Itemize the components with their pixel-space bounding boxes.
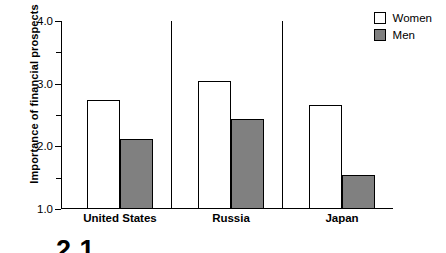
bar-men-japan bbox=[342, 175, 375, 209]
legend-swatch-men-icon bbox=[374, 29, 386, 41]
y-tick-label-3-0: 3.0 bbox=[37, 78, 53, 90]
y-tick-3-0 bbox=[55, 84, 61, 85]
y-tick-4-0 bbox=[55, 21, 61, 22]
y-tick-label-2-0: 2.0 bbox=[37, 140, 53, 152]
y-tick-label-1-0: 1.0 bbox=[37, 203, 53, 215]
y-tick-3-5 bbox=[56, 52, 61, 53]
y-tick-2-0 bbox=[55, 146, 61, 147]
legend-item-men: Men bbox=[374, 29, 432, 41]
x-label-united-states: United States bbox=[83, 212, 157, 224]
bar-women-united-states bbox=[87, 100, 120, 209]
bar-women-japan bbox=[309, 105, 342, 209]
bar-women-russia bbox=[198, 81, 231, 209]
plot-area: 1.0 2.0 3.0 4.0 bbox=[61, 21, 393, 209]
x-label-russia: Russia bbox=[212, 212, 250, 224]
legend-item-women: Women bbox=[374, 12, 432, 24]
x-label-japan: Japan bbox=[325, 212, 358, 224]
bar-men-russia bbox=[231, 119, 264, 209]
y-tick-1-0 bbox=[55, 209, 61, 210]
legend-swatch-women-icon bbox=[374, 12, 386, 24]
legend-label-women: Women bbox=[393, 12, 432, 24]
bar-men-united-states bbox=[120, 139, 153, 209]
y-tick-label-4-0: 4.0 bbox=[37, 15, 53, 27]
legend: Women Men bbox=[374, 12, 432, 46]
y-tick-1-5 bbox=[56, 178, 61, 179]
legend-label-men: Men bbox=[393, 29, 415, 41]
bar-chart: Importance of financial prospects 1.0 2.… bbox=[0, 0, 446, 253]
y-axis-line bbox=[61, 21, 62, 209]
group-separator-2 bbox=[282, 21, 283, 209]
figure-number: 2.1 bbox=[56, 236, 95, 253]
group-separator-1 bbox=[171, 21, 172, 209]
y-axis-title: Importance of financial prospects bbox=[28, 0, 40, 194]
y-tick-2-5 bbox=[56, 115, 61, 116]
